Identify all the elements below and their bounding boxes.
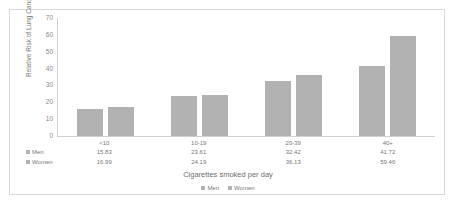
table-cells-women: 16.9924.1936.1359.46 (57, 159, 435, 165)
chart-legend: Men Women (10, 185, 446, 191)
bar-men[interactable] (265, 81, 291, 136)
table-cell-value: 41.72 (341, 149, 436, 155)
y-axis-tick-label: 30 (31, 82, 53, 89)
chart-frame: Relative Risk of Lung Cancer 70605040302… (9, 9, 445, 195)
table-cell-value: 15.83 (57, 149, 152, 155)
table-cell-value: 32.42 (246, 149, 341, 155)
table-cell-category: 20-39 (246, 140, 341, 146)
series-swatch-icon (26, 160, 30, 164)
bar-group (152, 18, 246, 136)
legend-swatch-icon (201, 186, 205, 190)
table-row: Men 15.8323.6132.4241.72 (26, 148, 435, 158)
table-row-categories: <1010-1920-3940+ (26, 138, 435, 148)
table-rowhead-men: Men (26, 149, 57, 155)
bar-women[interactable] (296, 75, 322, 136)
legend-label: Women (234, 185, 255, 191)
table-cell-value: 16.99 (57, 159, 152, 165)
bar-group (341, 18, 435, 136)
legend-label: Men (207, 185, 219, 191)
table-row: Women 16.9924.1936.1359.46 (26, 157, 435, 167)
series-swatch-icon (26, 150, 30, 154)
y-axis-tick-label: 20 (31, 99, 53, 106)
y-axis-tick-label: 40 (31, 65, 53, 72)
table-rowhead-women: Women (26, 159, 57, 165)
y-axis-tick-label: 10 (31, 116, 53, 123)
table-cells-categories: <1010-1920-3940+ (57, 140, 435, 146)
table-cell-category: <10 (57, 140, 152, 146)
bar-men[interactable] (171, 96, 197, 136)
bar-women[interactable] (202, 95, 228, 136)
table-rowhead-label: Men (32, 149, 44, 155)
x-axis-line (57, 136, 435, 137)
bar-women[interactable] (390, 36, 416, 136)
table-rowhead-label: Women (32, 159, 53, 165)
legend-item-men: Men (201, 185, 219, 191)
table-cell-category: 40+ (341, 140, 436, 146)
y-axis-tick-label: 60 (31, 32, 53, 39)
plot-area: 706050403020100 (57, 18, 435, 137)
bar-group (247, 18, 341, 136)
table-cell-value: 59.46 (341, 159, 436, 165)
bar-men[interactable] (359, 66, 385, 136)
bar-women[interactable] (108, 107, 134, 136)
bar-group (58, 18, 152, 136)
legend-item-women: Women (228, 185, 255, 191)
x-axis-title: Cigarettes smoked per day (10, 171, 446, 179)
bars-layer (58, 18, 435, 136)
table-cell-value: 36.13 (246, 159, 341, 165)
table-cell-value: 23.61 (152, 149, 247, 155)
table-cells-men: 15.8323.6132.4241.72 (57, 149, 435, 155)
bar-men[interactable] (77, 109, 103, 136)
table-cell-value: 24.19 (152, 159, 247, 165)
data-table: <1010-1920-3940+ Men 15.8323.6132.4241.7… (26, 138, 435, 167)
table-cell-category: 10-19 (152, 140, 247, 146)
y-axis-tick-label: 50 (31, 48, 53, 55)
y-axis-tick-label: 70 (31, 15, 53, 22)
legend-swatch-icon (228, 186, 232, 190)
